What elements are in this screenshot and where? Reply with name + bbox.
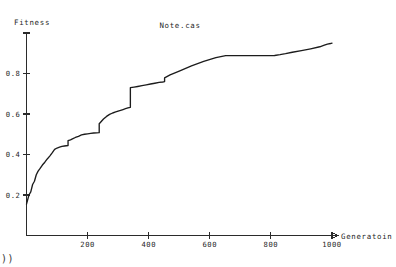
x-tick-label: 200: [80, 240, 95, 249]
fitness-line-chart: 0.20.40.60.8 2004006008001000 Note.cas F…: [0, 0, 396, 267]
chart-title: Note.cas: [159, 21, 200, 30]
y-tick-label: 0.8: [6, 69, 21, 78]
y-tick-label: 0.6: [6, 110, 21, 119]
y-tick-label: 0.4: [6, 150, 21, 159]
chart-container: 0.20.40.60.8 2004006008001000 Note.cas F…: [0, 0, 396, 267]
x-tick-label: 1000: [322, 240, 342, 249]
y-axis-title: Fitness: [14, 18, 50, 27]
fitness-series-line: [27, 43, 333, 204]
corner-artifact-text: )): [1, 253, 14, 264]
x-tick-label: 800: [264, 240, 279, 249]
x-axis-title: Generatoin: [341, 232, 393, 241]
y-tick-label: 0.2: [6, 191, 21, 200]
y-axis-tick-labels: 0.20.40.60.8: [6, 69, 21, 200]
x-axis-tick-labels: 2004006008001000: [80, 240, 341, 249]
x-tick-label: 600: [202, 240, 217, 249]
x-tick-label: 400: [141, 240, 156, 249]
